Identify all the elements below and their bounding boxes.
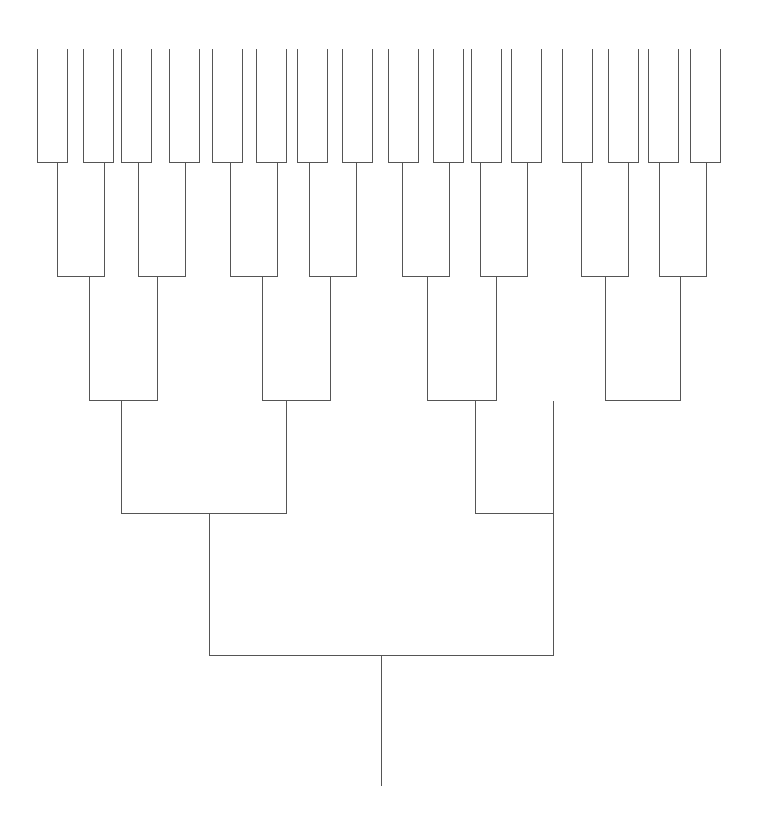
dendrogram-canvas — [0, 0, 759, 828]
dendrogram — [0, 0, 759, 828]
